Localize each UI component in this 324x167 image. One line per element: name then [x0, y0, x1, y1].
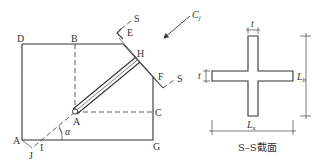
- label-d: D: [17, 33, 24, 44]
- label-lb: Lb: [296, 71, 307, 84]
- label-t-left: t: [198, 70, 201, 81]
- label-i: I: [40, 142, 43, 153]
- cross-section: t t Lb Lx S–S截面: [198, 18, 311, 153]
- label-t-top: t: [251, 18, 254, 29]
- label-b: B: [71, 33, 78, 44]
- outline: [22, 44, 153, 140]
- load-arrow: [164, 16, 190, 38]
- label-h: H: [137, 48, 144, 59]
- label-f: F: [158, 71, 164, 82]
- plan-view: D B E H F C A A I J G α S S Cj: [13, 9, 201, 161]
- label-a-corner: A: [13, 135, 21, 146]
- cross-shape: [212, 36, 293, 116]
- section-mark-top: [117, 29, 123, 39]
- label-c: C: [155, 107, 162, 118]
- label-s-top: S: [134, 13, 140, 24]
- label-j: J: [29, 150, 33, 161]
- diagram-canvas: D B E H F C A A I J G α S S Cj t t Lb: [0, 0, 324, 167]
- label-lx: Lx: [246, 119, 257, 132]
- section-mark-bottom-dash: [163, 80, 174, 88]
- section-caption: S–S截面: [238, 141, 277, 153]
- brace-member: [72, 57, 140, 114]
- label-alpha: α: [65, 126, 71, 137]
- label-s-bottom: S: [177, 73, 183, 84]
- label-g: G: [153, 141, 160, 152]
- label-e: E: [127, 27, 133, 38]
- label-a-center: A: [73, 116, 81, 127]
- label-cj: Cj: [192, 9, 201, 22]
- j-tick: [22, 140, 32, 148]
